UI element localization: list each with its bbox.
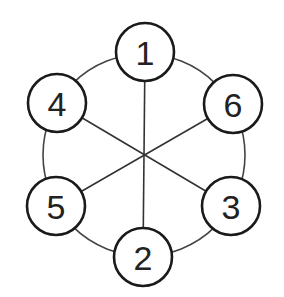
hexagon-node-diagram: 163254 <box>0 0 284 297</box>
node-6: 6 <box>204 75 262 133</box>
node-3: 3 <box>202 177 260 235</box>
node-label: 4 <box>48 85 67 123</box>
node-2: 2 <box>114 228 172 286</box>
node-label: 3 <box>222 188 241 226</box>
node-1: 1 <box>116 23 174 81</box>
diagram-canvas: 163254 <box>0 0 284 297</box>
node-label: 5 <box>47 188 66 226</box>
node-4: 4 <box>28 74 86 132</box>
node-label: 6 <box>224 86 243 124</box>
node-label: 1 <box>136 34 155 72</box>
node-5: 5 <box>27 177 85 235</box>
node-label: 2 <box>134 239 153 277</box>
spokes-group <box>56 52 233 257</box>
